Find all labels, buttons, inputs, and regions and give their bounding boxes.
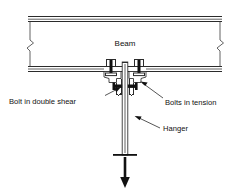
leader-bolts-in-tension — [140, 81, 163, 98]
label-bolt-double-shear: Bolt in double shear — [9, 97, 77, 106]
beam-top-flange — [28, 17, 222, 22]
figure-svg: Beam — [0, 0, 250, 194]
break-symbol-right — [217, 22, 224, 67]
load-arrow — [120, 157, 130, 188]
hanger-connection-figure: Beam — [0, 0, 250, 194]
tension-bolt-left — [106, 60, 117, 76]
label-bolts-in-tension: Bolts in tension — [165, 98, 217, 107]
break-symbol-left — [27, 22, 34, 67]
beam-label: Beam — [115, 39, 136, 48]
leader-hanger — [135, 116, 160, 128]
tension-bolt-right — [134, 60, 145, 76]
label-hanger: Hanger — [163, 124, 188, 133]
